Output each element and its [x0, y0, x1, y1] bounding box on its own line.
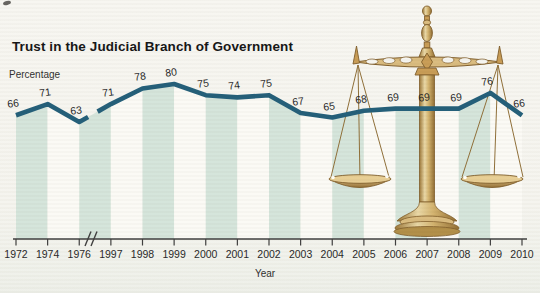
base-foot — [394, 227, 460, 237]
point-value-label: 69 — [418, 90, 431, 103]
x-tick-label: 1972 — [4, 248, 27, 260]
area-band — [269, 95, 301, 239]
point-value-label: 75 — [259, 77, 272, 90]
x-tick-label: 1999 — [162, 248, 185, 260]
pillar-capital — [415, 68, 439, 75]
x-tick-label: 2009 — [479, 248, 502, 260]
x-axis-label: Year — [255, 268, 275, 279]
point-value-label: 80 — [165, 65, 178, 78]
point-value-label: 66 — [512, 97, 525, 110]
x-tick-label: 2006 — [384, 248, 407, 260]
area-band — [490, 93, 522, 239]
point-value-label: 71 — [38, 85, 51, 98]
point-value-label: 76 — [481, 74, 494, 87]
x-tick-label: 1998 — [131, 248, 154, 260]
area-band — [143, 84, 175, 239]
point-value-label: 74 — [228, 79, 241, 92]
area-band — [111, 88, 143, 239]
area-band — [48, 104, 80, 239]
x-tick-label: 2002 — [257, 248, 280, 260]
point-value-label: 69 — [386, 90, 399, 103]
x-tick-label: 2000 — [194, 248, 217, 260]
x-tick-label: 2007 — [415, 248, 438, 260]
point-value-label: 78 — [133, 70, 146, 83]
point-value-label: 68 — [354, 92, 367, 105]
x-tick-label: 2004 — [321, 248, 344, 260]
scale-finial-ball — [423, 6, 432, 16]
x-tick-label: 2010 — [510, 248, 533, 260]
area-band — [16, 104, 48, 239]
x-tick-label: 2003 — [289, 248, 312, 260]
area-band — [206, 95, 238, 239]
chart-title: Trust in the Judicial Branch of Governme… — [12, 39, 293, 54]
x-tick-label: 2008 — [447, 248, 470, 260]
point-value-label: 65 — [323, 99, 336, 112]
point-value-label: 66 — [6, 97, 19, 110]
area-band — [79, 104, 111, 239]
point-value-label: 69 — [449, 90, 462, 103]
x-tick-label: 2001 — [226, 248, 249, 260]
area-band — [364, 109, 396, 239]
y-axis-label: Percentage — [9, 69, 60, 80]
point-value-label: 71 — [101, 85, 114, 98]
point-value-label: 75 — [196, 77, 209, 90]
point-value-label: 63 — [70, 103, 83, 116]
area-band — [459, 93, 491, 239]
x-tick-label: 1974 — [36, 248, 59, 260]
point-value-label: 67 — [291, 94, 304, 107]
x-tick-label: 2005 — [352, 248, 375, 260]
area-band — [174, 84, 206, 239]
x-tick-label: 1997 — [99, 248, 122, 260]
chart-figure: Trust in the Judicial Branch of Governme… — [0, 0, 540, 293]
area-band — [301, 113, 333, 239]
x-tick-label: 1976 — [68, 248, 91, 260]
area-band — [237, 95, 269, 239]
